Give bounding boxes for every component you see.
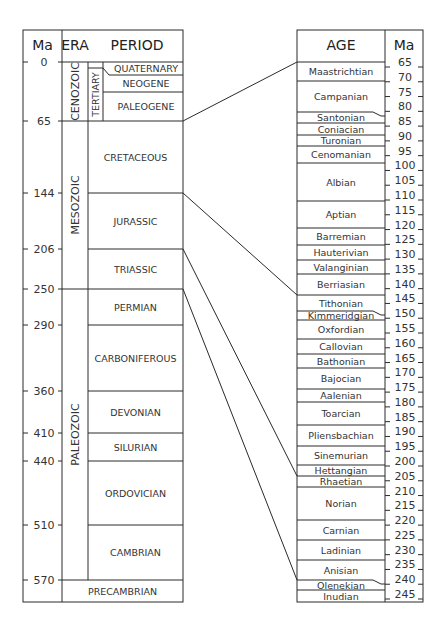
geologic-periods-table: MaERAPERIOD06514420625029036041044051057… xyxy=(23,30,183,602)
age-label: Anisian xyxy=(324,565,359,576)
ma-tick-label: 250 xyxy=(34,283,55,296)
age-ma-tick-label: 85 xyxy=(398,115,412,128)
connector-line xyxy=(183,249,297,476)
age-ma-tick-label: 90 xyxy=(398,130,412,143)
age-ma-tick-label: 110 xyxy=(395,189,416,202)
age-label: Aptian xyxy=(326,209,357,220)
age-ma-tick-label: 150 xyxy=(395,307,416,320)
age-label: Olenekian xyxy=(317,580,365,591)
period-label: NEOGENE xyxy=(122,78,169,89)
age-ma-tick-label: 220 xyxy=(395,514,416,527)
period-label: PRECAMBRIAN xyxy=(88,586,157,597)
ma-tick-label: 0 xyxy=(41,56,48,69)
age-label: Toarcian xyxy=(320,408,360,419)
age-ma-tick-label: 95 xyxy=(398,145,412,158)
age-label: Inudian xyxy=(323,591,358,602)
age-label: Carnian xyxy=(323,525,360,536)
period-label: SILURIAN xyxy=(114,442,158,453)
period-label: CRETACEOUS xyxy=(104,152,168,163)
period-label: CARBONIFEROUS xyxy=(95,353,177,364)
age-label: Campanian xyxy=(314,91,368,102)
age-label: Berriasian xyxy=(317,279,365,290)
ma-header-right: Ma xyxy=(394,37,415,53)
age-ma-tick-label: 105 xyxy=(395,174,416,187)
age-ma-tick-label: 65 xyxy=(398,56,412,69)
age-label: Bathonian xyxy=(317,356,365,367)
period-label: PERMIAN xyxy=(114,302,157,313)
age-label: Cenomanian xyxy=(311,149,371,160)
age-ma-tick-label: 80 xyxy=(398,100,412,113)
age-label: Barremian xyxy=(316,231,365,242)
ma-tick-label: 510 xyxy=(34,519,55,532)
age-ma-tick-label: 135 xyxy=(395,263,416,276)
ma-tick-label: 144 xyxy=(34,187,55,200)
age-header: AGE xyxy=(326,37,355,53)
age-label: Valanginian xyxy=(313,262,368,273)
ma-tick-label: 440 xyxy=(34,455,55,468)
age-ma-tick-label: 170 xyxy=(395,366,416,379)
age-label: Coniacian xyxy=(318,124,365,135)
age-ma-tick-label: 100 xyxy=(395,159,416,172)
geologic-time-scale-diagram: MaERAPERIOD06514420625029036041044051057… xyxy=(0,0,445,622)
period-label: TRIASSIC xyxy=(113,264,158,275)
ma-tick-label: 360 xyxy=(34,385,55,398)
age-ma-tick-label: 120 xyxy=(395,219,416,232)
age-ma-tick-label: 240 xyxy=(395,573,416,586)
age-ma-tick-label: 140 xyxy=(395,278,416,291)
age-ma-tick-label: 130 xyxy=(395,248,416,261)
age-label: Kimmeridgian xyxy=(308,310,374,321)
age-label: Ladinian xyxy=(321,545,361,556)
age-ma-tick-label: 185 xyxy=(395,411,416,424)
era-label: CENOZOIC xyxy=(69,62,82,121)
age-ma-tick-label: 165 xyxy=(395,352,416,365)
age-label: Hauterivian xyxy=(313,247,368,258)
age-label: Maastrichtian xyxy=(309,66,374,77)
age-ma-tick-label: 160 xyxy=(395,337,416,350)
ma-header: Ma xyxy=(32,37,53,53)
age-ma-tick-label: 145 xyxy=(395,292,416,305)
age-ma-tick-label: 115 xyxy=(395,204,416,217)
age-label: Sinemurian xyxy=(314,450,368,461)
era-label: PALEOZOIC xyxy=(69,403,82,466)
age-label: Pliensbachian xyxy=(308,430,373,441)
age-label: Oxfordian xyxy=(318,324,365,335)
age-ma-tick-label: 125 xyxy=(395,233,416,246)
age-ma-tick-label: 215 xyxy=(395,499,416,512)
age-label: Hettangian xyxy=(315,465,368,476)
age-label: Rhaetian xyxy=(320,476,363,487)
age-ma-tick-label: 155 xyxy=(395,322,416,335)
age-label: Aalenian xyxy=(320,390,361,401)
age-ma-tick-label: 210 xyxy=(395,485,416,498)
connector-line xyxy=(183,289,297,580)
ma-tick-label: 570 xyxy=(34,574,55,587)
tertiary-label: TERTIARY xyxy=(90,72,101,118)
period-label: DEVONIAN xyxy=(110,407,161,418)
age-ma-tick-label: 200 xyxy=(395,455,416,468)
age-ma-tick-label: 225 xyxy=(395,529,416,542)
age-ma-tick-label: 230 xyxy=(395,544,416,557)
age-label: Turonian xyxy=(320,135,361,146)
age-ma-tick-label: 245 xyxy=(395,588,416,601)
period-label: JURASSIC xyxy=(113,216,158,227)
age-label: Santonian xyxy=(317,112,365,123)
age-ma-tick-label: 205 xyxy=(395,470,416,483)
connector-line xyxy=(183,193,297,295)
period-label: ORDOVICIAN xyxy=(105,488,166,499)
era-header: ERA xyxy=(61,37,89,53)
ma-tick-label: 290 xyxy=(34,319,55,332)
age-label: Tithonian xyxy=(318,298,363,309)
age-ma-tick-label: 180 xyxy=(395,396,416,409)
period-age-connectors xyxy=(183,62,297,580)
age-ma-tick-label: 175 xyxy=(395,381,416,394)
era-label: MESOZOIC xyxy=(69,175,82,235)
mesozoic-ages-table: AGEMa65707580859095100105110115120125130… xyxy=(297,30,423,602)
age-label: Bajocian xyxy=(321,373,362,384)
age-ma-tick-label: 190 xyxy=(395,425,416,438)
ma-tick-label: 410 xyxy=(34,427,55,440)
ma-tick-label: 65 xyxy=(37,115,51,128)
age-label: Norian xyxy=(325,498,356,509)
age-label: Callovian xyxy=(319,341,363,352)
age-label: Albian xyxy=(326,177,356,188)
period-label: QUATERNARY xyxy=(114,63,178,74)
connector-line xyxy=(183,62,297,121)
